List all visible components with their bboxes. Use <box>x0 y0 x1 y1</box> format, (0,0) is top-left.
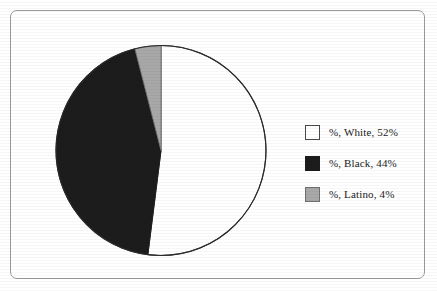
legend-item-latino[interactable]: %, Latino, 4% <box>305 179 425 210</box>
legend-swatch-latino-icon <box>305 187 320 202</box>
legend-label-black: %, Black, 44% <box>329 158 397 169</box>
pie-slice-white[interactable] <box>148 46 266 256</box>
chart-frame-border: %, White, 52% %, Black, 44% %, Latino, 4… <box>10 10 425 279</box>
legend-label-white: %, White, 52% <box>329 127 398 138</box>
pie-chart-figure: %, White, 52% %, Black, 44% %, Latino, 4… <box>0 0 437 291</box>
legend-swatch-black-icon <box>305 156 320 171</box>
pie-plot-area <box>55 44 267 257</box>
pie-svg <box>55 44 267 257</box>
legend-item-white[interactable]: %, White, 52% <box>305 117 425 148</box>
legend-swatch-white-icon <box>305 125 320 140</box>
pie-slice-group <box>56 46 266 256</box>
legend-label-latino: %, Latino, 4% <box>329 189 395 200</box>
legend-item-black[interactable]: %, Black, 44% <box>305 148 425 179</box>
chart-legend: %, White, 52% %, Black, 44% %, Latino, 4… <box>305 117 425 210</box>
